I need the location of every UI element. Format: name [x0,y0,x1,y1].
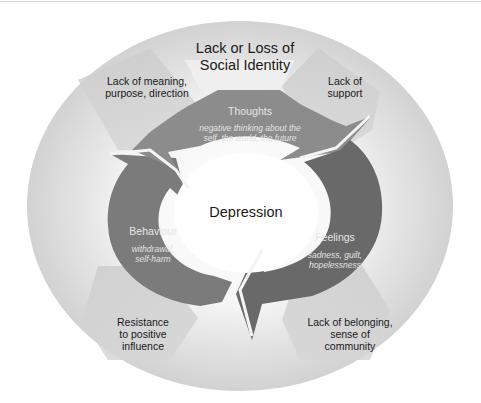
cycle-desc-thoughts: negative thinking about the self, the wo… [180,124,320,143]
factor-label-resistance: Resistance to positive influence [103,317,183,352]
factor-label-support: Lack of support [310,76,380,100]
cycle-desc-feelings: sadness, guilt, hopelessness [295,251,375,270]
factor-label-belonging: Lack of belonging, sense of community [290,317,410,352]
cycle-label-thoughts: Thoughts [210,106,290,118]
diagram-title: Lack or Loss of Social Identity [180,40,310,73]
cycle-label-behaviour: Behaviour [118,226,188,238]
cycle-label-feelings: Feelings [300,232,370,244]
cycle-desc-behaviour: withdrawal, self-harm [118,245,188,264]
factor-label-meaning: Lack of meaning, purpose, direction [92,76,202,100]
center-label: Depression [196,204,296,220]
